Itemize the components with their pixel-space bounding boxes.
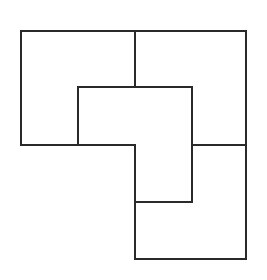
figure-container	[0, 0, 267, 280]
pinwheel-tiling-diagram	[0, 0, 267, 280]
